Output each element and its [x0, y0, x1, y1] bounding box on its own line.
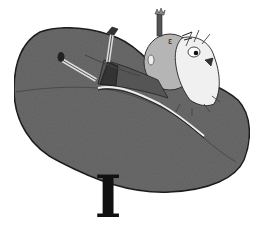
- letter-i-mark: I: [88, 168, 128, 226]
- beanbag-figure-drawing: ε: [0, 0, 268, 234]
- beanbag: [14, 28, 249, 192]
- illustration: ε I: [0, 0, 268, 234]
- svg-text:ε: ε: [168, 37, 172, 46]
